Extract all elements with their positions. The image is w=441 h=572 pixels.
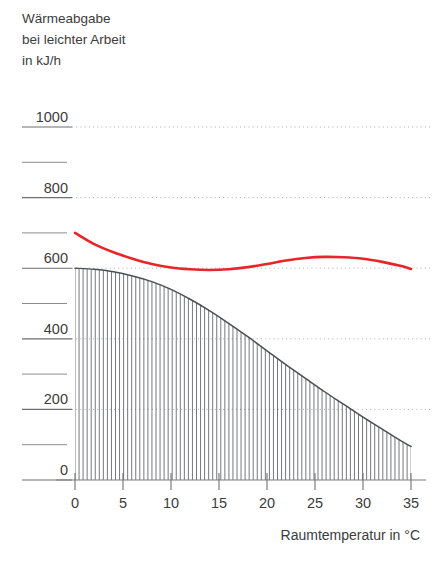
series-line-dry-heat bbox=[75, 268, 411, 446]
x-tick-label: 30 bbox=[355, 495, 371, 511]
y-tick-label: 1000 bbox=[36, 109, 68, 125]
x-tick-marks-group bbox=[75, 473, 411, 490]
x-tick-label: 25 bbox=[307, 495, 323, 511]
y-tick-labels-group: 02004006008001000 bbox=[36, 109, 68, 478]
x-tick-label: 10 bbox=[163, 495, 179, 511]
x-tick-labels-group: 05101520253035 bbox=[71, 495, 419, 511]
hatched-area-group bbox=[75, 260, 411, 480]
chart-figure: Wärmeabgabe bei leichter Arbeit in kJ/h … bbox=[0, 0, 441, 572]
x-tick-label: 5 bbox=[119, 495, 127, 511]
x-tick-label: 15 bbox=[211, 495, 227, 511]
chart-svg: 02004006008001000 05101520253035 Raumtem… bbox=[0, 0, 441, 572]
chart-title-line-1: Wärmeabgabe bbox=[22, 8, 126, 29]
chart-title-block: Wärmeabgabe bei leichter Arbeit in kJ/h bbox=[22, 8, 126, 71]
y-tick-label: 600 bbox=[44, 250, 68, 266]
x-tick-label: 20 bbox=[259, 495, 275, 511]
y-tick-label: 0 bbox=[60, 462, 68, 478]
x-tick-label: 0 bbox=[71, 495, 79, 511]
y-tick-label: 800 bbox=[44, 180, 68, 196]
x-tick-label: 35 bbox=[403, 495, 419, 511]
chart-title-line-3: in kJ/h bbox=[22, 50, 126, 71]
series-line-total-heat bbox=[75, 233, 411, 270]
chart-title-line-2: bei leichter Arbeit bbox=[22, 29, 126, 50]
gridlines-group bbox=[72, 127, 430, 409]
y-tick-label: 200 bbox=[44, 391, 68, 407]
x-axis-title: Raumtemperatur in °C bbox=[281, 527, 420, 543]
y-tick-label: 400 bbox=[44, 321, 68, 337]
